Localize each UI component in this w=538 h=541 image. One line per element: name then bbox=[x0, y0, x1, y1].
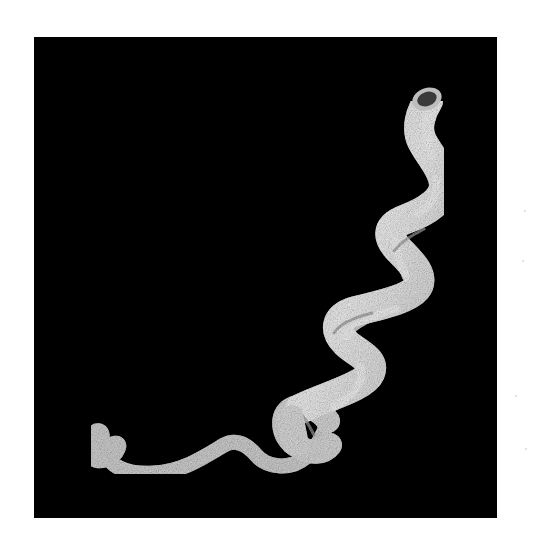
scan-artifact bbox=[525, 448, 527, 450]
photo bbox=[34, 37, 497, 518]
scan-artifact bbox=[522, 260, 524, 262]
scan-artifact bbox=[524, 210, 526, 212]
spiral-organism bbox=[34, 37, 497, 518]
scan-artifact bbox=[515, 395, 517, 397]
